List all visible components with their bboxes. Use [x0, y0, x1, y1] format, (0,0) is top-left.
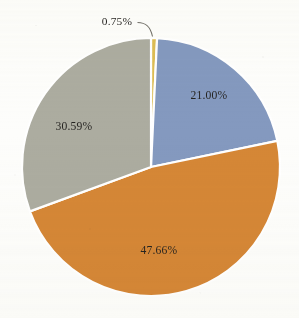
leader-line-gold-slice [138, 23, 153, 37]
pie-slices-group [22, 38, 280, 296]
pie-chart-canvas: 0.75% 21.00% 47.66% 30.59% [0, 0, 299, 318]
slice-label-orange: 47.66% [141, 244, 178, 257]
slice-label-gold: 0.75% [102, 15, 133, 27]
slice-label-gray: 30.59% [56, 120, 93, 133]
slice-label-blue: 21.00% [191, 89, 228, 102]
pie-chart-figure: 0.75% 21.00% 47.66% 30.59% [0, 0, 299, 318]
